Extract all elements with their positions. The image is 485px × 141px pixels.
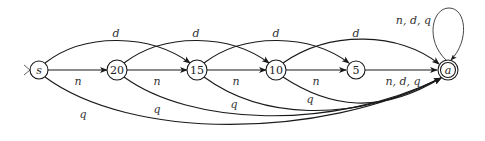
edge-label-d: d: [192, 27, 199, 40]
edge-label-d: d: [112, 27, 119, 40]
edge-label-d: d: [272, 27, 279, 40]
node-10: 10: [266, 60, 286, 80]
edge-label-n: n: [153, 75, 160, 88]
node-5: 5: [347, 61, 365, 79]
node-a-accepting: a: [438, 60, 458, 80]
edge-label-d: d: [352, 27, 359, 40]
edge-label-q: q: [153, 103, 160, 116]
edge-label-q: q: [79, 108, 86, 121]
q-edges: [45, 77, 441, 124]
node-label: a: [445, 64, 452, 77]
edge-label-n: n: [74, 75, 81, 88]
node-label: 10: [269, 64, 283, 77]
node-20: 20: [107, 60, 127, 80]
node-s: s: [30, 61, 48, 79]
d-edges: [45, 39, 439, 64]
edge-label-n: n: [312, 75, 319, 88]
start-arrow-icon: [24, 65, 30, 75]
self-loop-label: n, d, q: [396, 14, 431, 27]
node-label: 20: [110, 64, 124, 77]
automaton-diagram: s 20 15 10 5 a d d d d n n n n n, d, q q…: [0, 0, 485, 141]
edge-label-q: q: [230, 98, 237, 111]
edge-label-q: q: [306, 93, 313, 106]
edge-label-n: n: [232, 75, 239, 88]
node-label: s: [36, 64, 42, 77]
node-15: 15: [187, 60, 207, 80]
edge-label-ndq: n, d, q: [385, 75, 420, 88]
self-loop-a: [433, 8, 464, 60]
edge-10-a: [283, 39, 439, 64]
node-label: 15: [190, 64, 204, 77]
node-label: 5: [353, 64, 360, 77]
